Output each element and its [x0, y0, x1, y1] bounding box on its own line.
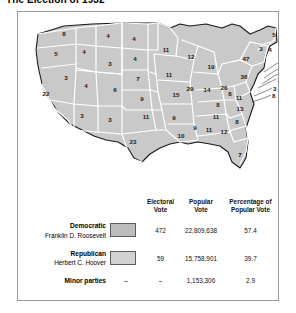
header-popular-vote: Popular Vote	[179, 198, 223, 221]
svg-text:8: 8	[272, 92, 276, 99]
table-header-row: Electoral Vote Popular Vote Percentage o…	[18, 198, 278, 221]
color-swatch-democratic	[110, 223, 136, 237]
svg-text:3: 3	[64, 74, 68, 81]
swatch-cell-republican	[110, 240, 142, 268]
svg-text:3: 3	[259, 45, 263, 52]
svg-text:8: 8	[228, 90, 232, 97]
svg-text:12: 12	[188, 53, 195, 60]
party-republican: Republican Herbert C. Hoover	[18, 240, 110, 268]
svg-text:7: 7	[238, 151, 242, 158]
svg-text:13: 13	[237, 105, 244, 112]
electoral-map: 8 5 22 3 4 4 3 4 3 6 3 4 4 7 9 11 23 11 …	[18, 12, 278, 197]
header-percentage-line2: Popular Vote	[231, 206, 270, 213]
svg-text:4: 4	[268, 46, 272, 53]
svg-text:16: 16	[277, 76, 278, 83]
svg-text:9: 9	[193, 124, 197, 131]
svg-text:8: 8	[62, 30, 66, 37]
svg-text:5: 5	[272, 31, 276, 38]
republican-popular-vote: 15,758,901	[179, 240, 223, 268]
svg-text:4: 4	[132, 35, 136, 42]
svg-text:3: 3	[108, 116, 112, 123]
swatch-cell-democratic	[110, 221, 142, 240]
party-democratic: Democratic Franklin D. Roosevelt	[18, 221, 110, 240]
party-name: Democratic	[18, 221, 106, 231]
header-party-spacer	[18, 198, 110, 221]
svg-text:23: 23	[130, 138, 137, 145]
svg-text:11: 11	[163, 46, 170, 53]
header-popular-vote-line2: Vote	[194, 206, 207, 213]
svg-text:5: 5	[54, 50, 58, 57]
minor-parties-percentage: 2.9	[223, 268, 278, 284]
svg-text:3: 3	[108, 60, 112, 67]
svg-text:11: 11	[143, 113, 150, 120]
svg-text:14: 14	[204, 86, 211, 93]
candidate-name: Herbert C. Hoover	[18, 258, 106, 267]
header-electoral-vote-line1: Electoral	[147, 198, 174, 205]
header-swatch-spacer	[110, 198, 142, 221]
svg-text:47: 47	[243, 55, 250, 62]
republican-electoral-vote: 59	[142, 240, 179, 268]
table-row-minor: Minor parties – – 1,153,306 2.9	[18, 268, 278, 284]
table-row: Democratic Franklin D. Roosevelt 472 22,…	[18, 221, 278, 240]
minor-parties-popular-vote: 1,153,306	[179, 268, 223, 284]
minor-parties-dash: –	[110, 268, 142, 284]
election-results: Electoral Vote Popular Vote Percentage o…	[18, 198, 278, 284]
republican-percentage: 39.7	[223, 240, 278, 268]
candidate-name: Franklin D. Roosevelt	[18, 231, 106, 240]
header-popular-vote-line1: Popular	[189, 198, 213, 205]
header-percentage-line1: Percentage of	[229, 198, 271, 205]
results-table: Electoral Vote Popular Vote Percentage o…	[18, 198, 278, 284]
svg-text:8: 8	[235, 118, 239, 125]
svg-text:11: 11	[213, 113, 220, 120]
svg-text:7: 7	[136, 75, 140, 82]
svg-text:29: 29	[187, 85, 194, 92]
svg-text:11: 11	[236, 94, 243, 101]
svg-text:9: 9	[172, 114, 176, 121]
svg-text:6: 6	[113, 86, 117, 93]
democratic-popular-vote: 22,809,638	[179, 221, 223, 240]
svg-text:15: 15	[173, 91, 180, 98]
svg-text:8: 8	[216, 101, 220, 108]
svg-text:10: 10	[178, 132, 185, 139]
svg-text:4: 4	[106, 32, 110, 39]
svg-text:3: 3	[80, 112, 84, 119]
svg-text:4: 4	[82, 48, 86, 55]
header-electoral-vote-line2: Vote	[154, 206, 167, 213]
header-electoral-vote: Electoral Vote	[142, 198, 179, 221]
svg-text:11: 11	[166, 71, 173, 78]
svg-text:3: 3	[273, 85, 277, 92]
svg-text:19: 19	[208, 63, 215, 70]
svg-text:4: 4	[133, 55, 137, 62]
democratic-electoral-vote: 472	[142, 221, 179, 240]
svg-text:12: 12	[221, 128, 228, 135]
header-percentage: Percentage of Popular Vote	[223, 198, 278, 221]
svg-text:36: 36	[241, 73, 248, 80]
party-name: Republican	[18, 249, 106, 259]
color-swatch-republican	[110, 251, 136, 265]
figure-frame: 8 5 22 3 4 4 3 4 3 6 3 4 4 7 9 11 23 11 …	[17, 11, 279, 301]
table-row: Republican Herbert C. Hoover 59 15,758,9…	[18, 240, 278, 268]
map-svg: 8 5 22 3 4 4 3 4 3 6 3 4 4 7 9 11 23 11 …	[18, 12, 278, 197]
svg-text:4: 4	[84, 82, 88, 89]
svg-text:22: 22	[43, 90, 50, 97]
democratic-percentage: 57.4	[223, 221, 278, 240]
svg-text:9: 9	[140, 95, 144, 102]
svg-text:26: 26	[221, 84, 228, 91]
page-title: The Election of 1932	[6, 0, 105, 5]
callout-electoral-labels: 17 4 8 16 3 8	[272, 57, 278, 99]
minor-parties-label: Minor parties	[18, 268, 110, 284]
minor-parties-electoral-vote: –	[142, 268, 179, 284]
svg-text:11: 11	[206, 126, 213, 133]
